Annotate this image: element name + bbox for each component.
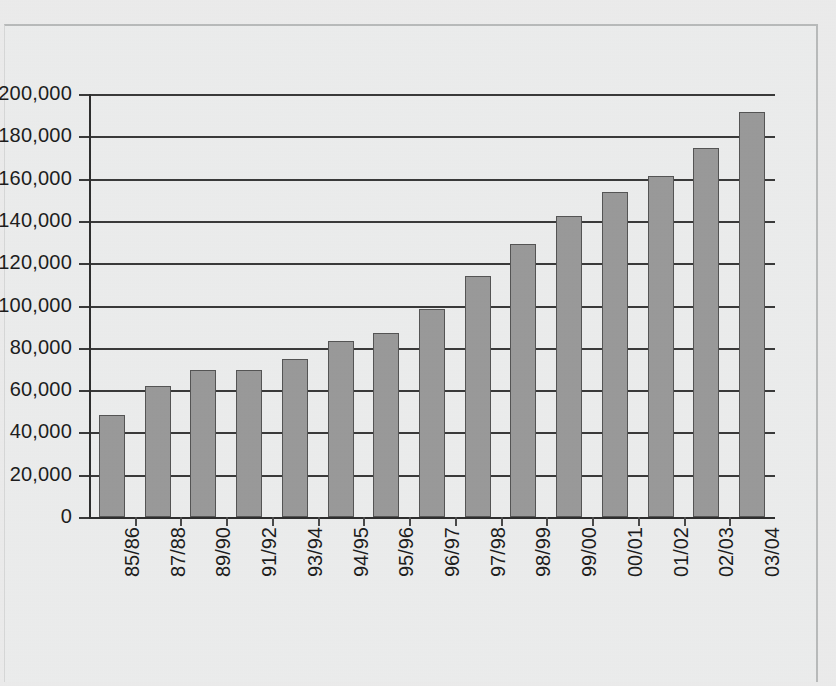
x-axis-tick xyxy=(135,517,137,526)
y-axis-tick xyxy=(79,263,89,265)
bar xyxy=(419,309,445,517)
bar xyxy=(739,112,765,517)
x-axis-tick xyxy=(455,517,457,526)
x-axis-tick xyxy=(226,517,228,526)
x-axis-tick xyxy=(638,517,640,526)
y-axis-tick-label: 0 xyxy=(0,506,72,526)
plot-area xyxy=(89,94,775,517)
x-axis-tick-label: 00/01 xyxy=(625,527,645,637)
bar xyxy=(373,333,399,517)
y-axis-tick-label: 200,000 xyxy=(0,83,72,103)
x-axis-tick-label: 03/04 xyxy=(762,527,782,637)
x-axis-tick-label: 85/86 xyxy=(122,527,142,637)
x-axis-tick-label: 95/96 xyxy=(396,527,416,637)
x-axis-tick-label: 94/95 xyxy=(351,527,371,637)
x-axis-tick xyxy=(363,517,365,526)
x-axis-tick xyxy=(684,517,686,526)
bar xyxy=(465,276,491,517)
x-axis-tick xyxy=(592,517,594,526)
y-axis-tick xyxy=(79,517,89,519)
bar xyxy=(282,359,308,517)
bar xyxy=(693,148,719,517)
x-axis-tick-label: 91/92 xyxy=(259,527,279,637)
y-axis-tick xyxy=(79,390,89,392)
y-axis-tick xyxy=(79,432,89,434)
x-axis-tick-label: 99/00 xyxy=(579,527,599,637)
bar xyxy=(145,386,171,517)
bar xyxy=(510,244,536,517)
x-axis-line xyxy=(89,517,775,519)
x-axis-tick-label: 98/99 xyxy=(533,527,553,637)
x-axis-tick-label: 89/90 xyxy=(213,527,233,637)
x-axis-tick xyxy=(180,517,182,526)
x-axis-tick-label: 97/98 xyxy=(488,527,508,637)
y-axis-tick-label: 160,000 xyxy=(0,168,72,188)
y-axis-tick-label: 180,000 xyxy=(0,125,72,145)
bar xyxy=(190,370,216,517)
y-axis-tick xyxy=(79,475,89,477)
x-axis-tick xyxy=(546,517,548,526)
bar xyxy=(648,176,674,517)
y-axis-tick-label: 20,000 xyxy=(0,464,72,484)
x-axis-tick-label: 96/97 xyxy=(442,527,462,637)
bar-chart: 200,000180,000160,000140,000120,000100,0… xyxy=(0,0,836,686)
bar xyxy=(556,216,582,517)
y-axis-tick xyxy=(79,136,89,138)
y-axis-tick xyxy=(79,221,89,223)
x-axis-tick xyxy=(501,517,503,526)
bar xyxy=(99,415,125,517)
x-axis-tick-label: 01/02 xyxy=(671,527,691,637)
y-axis-tick-label: 120,000 xyxy=(0,252,72,272)
bar xyxy=(602,192,628,517)
x-axis-tick-label: 87/88 xyxy=(168,527,188,637)
y-axis-tick-label: 140,000 xyxy=(0,210,72,230)
y-axis-tick xyxy=(79,94,89,96)
y-axis-tick xyxy=(79,306,89,308)
x-axis-tick-label: 02/03 xyxy=(716,527,736,637)
y-axis-tick-label: 40,000 xyxy=(0,421,72,441)
bar xyxy=(328,341,354,517)
y-axis-tick xyxy=(79,348,89,350)
y-axis-tick xyxy=(79,179,89,181)
x-axis-tick xyxy=(409,517,411,526)
y-axis-tick-label: 80,000 xyxy=(0,337,72,357)
x-axis-tick xyxy=(272,517,274,526)
x-axis-tick-label: 93/94 xyxy=(305,527,325,637)
x-axis-tick xyxy=(729,517,731,526)
y-axis-tick-label: 100,000 xyxy=(0,295,72,315)
x-axis-tick xyxy=(318,517,320,526)
y-axis-tick-label: 60,000 xyxy=(0,379,72,399)
bar xyxy=(236,370,262,517)
